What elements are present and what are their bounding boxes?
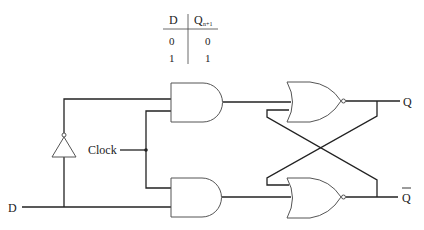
nor-gate-top xyxy=(287,82,341,122)
label-output-qbar: Q xyxy=(402,191,411,205)
table-cell: 0 xyxy=(169,35,175,47)
d-latch-diagram: D Q n+1 0 0 1 1 xyxy=(0,0,424,230)
inverter-gate xyxy=(52,137,76,157)
nor-gate-bottom xyxy=(287,178,341,218)
label-clock: Clock xyxy=(88,143,117,157)
and-gate-top xyxy=(171,83,223,122)
table-cell: 0 xyxy=(205,35,211,47)
inverter-bubble xyxy=(62,133,66,137)
table-cell: 1 xyxy=(205,52,211,64)
table-cell: 1 xyxy=(169,52,175,64)
wire-clock-bus xyxy=(146,111,171,188)
table-header-q: Q xyxy=(194,13,203,27)
label-output-q: Q xyxy=(403,95,412,109)
table-header-q-subscript: n+1 xyxy=(203,21,212,27)
and-gate-bottom xyxy=(171,178,222,217)
label-d-input: D xyxy=(8,201,17,215)
wire-inverter-out xyxy=(64,99,171,133)
nor-bottom-bubble xyxy=(342,195,346,199)
clock-junction-dot xyxy=(144,148,148,152)
nor-top-bubble xyxy=(342,99,346,103)
table-header-d: D xyxy=(169,13,178,27)
truth-table: D Q n+1 0 0 1 1 xyxy=(163,13,218,64)
